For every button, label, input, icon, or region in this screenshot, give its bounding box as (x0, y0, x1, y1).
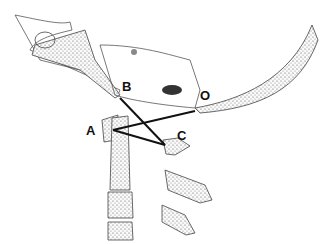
clivus-bone (32, 30, 120, 98)
c3-body (108, 192, 133, 218)
brainstem (100, 45, 200, 108)
c3-spinous (162, 205, 195, 235)
occipital-bone (195, 25, 318, 113)
anatomy-illustration (0, 0, 335, 244)
label-a: A (86, 124, 95, 137)
label-c: C (177, 129, 186, 142)
label-o: O (200, 89, 210, 102)
dark-mass (162, 85, 182, 95)
c4-body (108, 222, 133, 240)
label-b: B (122, 80, 131, 93)
c2-spinous (165, 170, 212, 203)
